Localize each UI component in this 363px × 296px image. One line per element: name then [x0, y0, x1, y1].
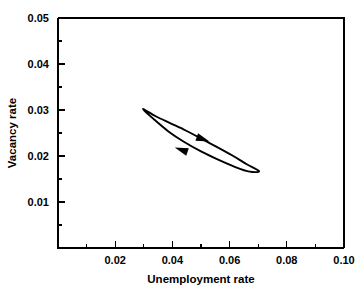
y-tick-label: 0.01: [28, 196, 49, 208]
y-axis-title: Vacancy rate: [6, 98, 18, 168]
data-series-group: [143, 109, 259, 172]
x-tick-label: 0.08: [276, 254, 297, 266]
direction-arrow-markers: [173, 133, 210, 155]
x-axis-title: Unemployment rate: [147, 273, 254, 285]
plot-frame: [58, 18, 344, 248]
beveridge-curve-chart: 0.020.040.060.080.10 0.010.020.030.040.0…: [0, 0, 363, 296]
x-axis-major-ticks: [115, 241, 344, 248]
chart-container: 0.020.040.060.080.10 0.010.020.030.040.0…: [0, 0, 363, 296]
lower-branch-arrow: [173, 144, 188, 156]
y-axis-tick-labels: 0.010.020.030.040.05: [28, 12, 50, 208]
x-tick-label: 0.06: [219, 254, 240, 266]
y-tick-label: 0.05: [28, 12, 49, 24]
y-tick-label: 0.04: [28, 58, 50, 70]
x-tick-label: 0.04: [162, 254, 184, 266]
x-tick-label: 0.10: [333, 254, 354, 266]
x-tick-label: 0.02: [104, 254, 125, 266]
y-axis-major-ticks: [58, 18, 65, 202]
x-axis-tick-labels: 0.020.040.060.080.10: [104, 254, 354, 266]
y-tick-label: 0.03: [28, 104, 49, 116]
y-tick-label: 0.02: [28, 150, 49, 162]
